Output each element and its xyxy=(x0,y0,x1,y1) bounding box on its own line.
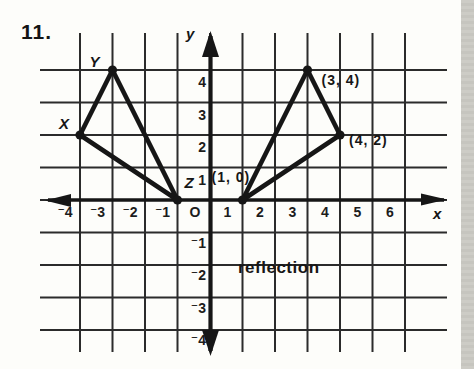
vertex-dot xyxy=(335,130,344,139)
x-axis-right-arrow xyxy=(421,194,447,206)
vertex-dot xyxy=(238,195,247,204)
vertex-dot xyxy=(75,130,84,139)
textbook-figure: 11. y x reflection ⁻4⁻3⁻2⁻1O1234564321⁻1… xyxy=(0,0,474,369)
grid-lines xyxy=(40,33,447,352)
vertex-dot xyxy=(108,65,117,74)
coordinate-grid xyxy=(0,0,474,369)
x-axis-left-arrow xyxy=(45,194,71,207)
y-axis-bottom-arrow xyxy=(202,330,219,356)
y-axis-top-arrow xyxy=(202,31,219,57)
vertex-dot xyxy=(303,65,312,74)
vertex-dot xyxy=(173,195,182,204)
